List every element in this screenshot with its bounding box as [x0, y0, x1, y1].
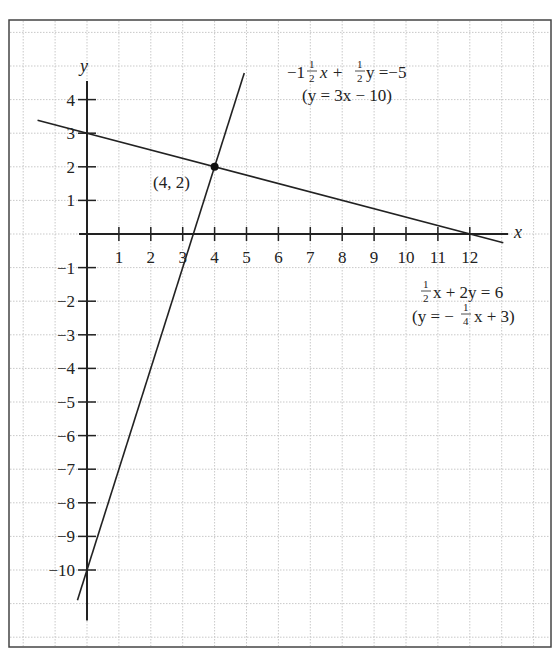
y-tick-label: −3: [57, 326, 75, 345]
eq1-x-term: x +: [319, 63, 343, 82]
series-lines: [38, 73, 504, 600]
grid: [10, 21, 550, 646]
y-tick-label: −1: [57, 259, 75, 278]
eq1-y-term: y =−5: [366, 63, 406, 82]
y-tick-label: 3: [67, 124, 76, 143]
y-tick-label: −8: [57, 494, 75, 513]
intersection-point: [211, 163, 219, 171]
x-axis-label: x: [513, 222, 522, 242]
x-tick-label: 12: [461, 248, 478, 267]
x-tick-label: 9: [370, 248, 379, 267]
eq2-frac2-den: 4: [463, 315, 469, 327]
eq2-frac2-num: 1: [463, 301, 469, 313]
equation-1-label: −1 1 2 x + 1 2 y =−5 (y = 3x − 10): [287, 58, 406, 105]
eq1-fraction-y: 1 2: [355, 58, 365, 84]
x-tick-label: 5: [242, 248, 251, 267]
equation-2-label: 1 2 x + 2y = 6 (y = − 1 4 x + 3): [412, 278, 515, 327]
y-tick-label: −6: [57, 427, 75, 446]
intersection-label: (4, 2): [153, 173, 190, 192]
x-tick-label: 2: [147, 248, 156, 267]
eq1-frac2-den: 2: [357, 72, 363, 84]
points: [211, 163, 219, 171]
y-tick-label: −2: [57, 292, 75, 311]
y-tick-label: 1: [67, 191, 76, 210]
y-tick-label: −10: [48, 561, 75, 580]
y-tick-label: −7: [57, 460, 76, 479]
x-tick-label: 6: [274, 248, 283, 267]
eq1-frac1-num: 1: [309, 58, 315, 70]
eq2-frac1-num: 1: [423, 278, 429, 290]
eq2-fraction-alt: 1 4: [461, 301, 471, 327]
x-tick-label: 4: [210, 248, 219, 267]
x-tick-label: 7: [306, 248, 315, 267]
eq2-frac1-den: 2: [423, 292, 429, 304]
eq1-alt: (y = 3x − 10): [302, 86, 392, 105]
eq1-frac2-num: 1: [357, 58, 363, 70]
axes: [79, 81, 508, 620]
x-tick-label: 11: [430, 248, 446, 267]
x-tick-label: 10: [398, 248, 415, 267]
y-tick-label: −9: [57, 527, 75, 546]
eq1-frac1-den: 2: [309, 72, 315, 84]
eq2-alt-tail: x + 3): [474, 307, 515, 326]
y-axis-label: y: [78, 56, 88, 76]
y-tick-label: −5: [57, 393, 75, 412]
chart-canvas: 1234567891011124321−1−2−3−4−5−6−7−8−9−10…: [0, 0, 557, 659]
eq2-alt-lead: (y = −: [412, 307, 454, 326]
eq1-fraction-x: 1 2: [307, 58, 317, 84]
x-tick-label: 1: [115, 248, 124, 267]
x-tick-label: 8: [338, 248, 347, 267]
eq2-fraction-x: 1 2: [421, 278, 431, 304]
y-tick-label: 2: [67, 158, 76, 177]
y-tick-label: −4: [57, 359, 76, 378]
y-tick-label: 4: [67, 91, 76, 110]
eq1-lead: −1: [287, 63, 305, 82]
eq2-main: x + 2y = 6: [433, 283, 503, 302]
series-line-2: [38, 120, 504, 243]
